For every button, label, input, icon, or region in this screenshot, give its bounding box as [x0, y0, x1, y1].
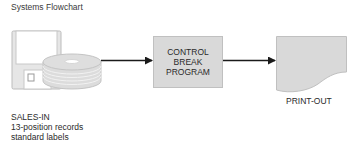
input-detail: standard labels	[11, 132, 83, 142]
process-label: CONTROL BREAK PROGRAM	[153, 36, 223, 88]
process-label-line: CONTROL	[167, 47, 209, 57]
input-caption: SALES-IN 13-position records standard la…	[11, 112, 83, 142]
input-detail: 13-position records	[11, 122, 83, 132]
process-label-line: BREAK	[174, 57, 203, 67]
document-icon	[277, 37, 347, 92]
input-name: SALES-IN	[11, 112, 83, 122]
disk-pack-icon	[43, 54, 101, 89]
process-label-line: PROGRAM	[166, 67, 210, 77]
output-label: PRINT-OUT	[286, 96, 332, 106]
